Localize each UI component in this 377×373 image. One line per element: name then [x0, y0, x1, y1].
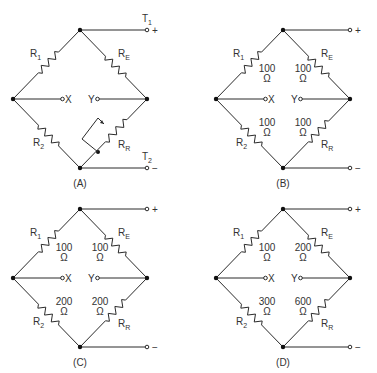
rr-unit: Ω — [299, 127, 307, 138]
terminal-negative — [348, 345, 352, 349]
re-unit: Ω — [299, 252, 307, 263]
label-x: X — [65, 273, 72, 284]
resistor-re — [283, 30, 350, 99]
node-bottom — [281, 166, 285, 170]
terminal-x — [61, 97, 65, 101]
node-top — [78, 207, 82, 211]
r1-unit: Ω — [263, 73, 271, 84]
caption-d: (D) — [276, 357, 290, 368]
r2-unit: Ω — [60, 306, 68, 317]
node-top — [281, 28, 285, 32]
resistor-r2 — [13, 278, 80, 347]
node-bottom — [281, 345, 285, 349]
re-unit: Ω — [96, 252, 104, 263]
caption-b: (B) — [276, 178, 289, 189]
terminal-y — [96, 97, 100, 101]
label-r2: R2 — [236, 316, 247, 329]
terminal-y — [299, 276, 303, 280]
rr-unit: Ω — [96, 306, 104, 317]
r1-unit: Ω — [60, 252, 68, 263]
bridge-diagram-b: XY+−R1RER2RR100Ω100Ω100Ω100Ω(B) — [214, 25, 361, 189]
resistor-r2 — [13, 99, 80, 168]
label-r2: R2 — [33, 137, 44, 150]
resistor-re — [283, 209, 350, 278]
node-left — [11, 276, 15, 280]
terminal-x — [61, 276, 65, 280]
resistor-rr — [283, 99, 350, 168]
label-r1: R1 — [233, 48, 244, 61]
terminal-x — [264, 97, 268, 101]
sign-negative: − — [355, 163, 361, 174]
label-re: RE — [321, 227, 333, 240]
sign-positive: + — [152, 204, 158, 215]
r2-unit: Ω — [263, 127, 271, 138]
label-r2: R2 — [236, 137, 247, 150]
node-right — [145, 97, 149, 101]
label-y: Y — [291, 94, 298, 105]
label-rr: RR — [118, 139, 130, 152]
re-unit: Ω — [299, 73, 307, 84]
node-right — [348, 276, 352, 280]
terminal-y — [299, 97, 303, 101]
node-top — [281, 207, 285, 211]
resistor-r2 — [216, 278, 283, 347]
rr-unit: Ω — [299, 306, 307, 317]
label-re: RE — [118, 227, 130, 240]
node-bottom — [78, 166, 82, 170]
sign-negative: − — [355, 342, 361, 353]
terminal-x — [264, 276, 268, 280]
sign-positive: + — [355, 204, 361, 215]
resistor-re — [80, 30, 147, 99]
sign-positive: + — [355, 25, 361, 36]
sign-negative: − — [152, 342, 158, 353]
resistor-rr — [283, 278, 350, 347]
bridge-diagram-c: XY+−R1RER2RR100Ω100Ω200Ω200Ω(C) — [11, 204, 158, 368]
resistor-rr — [80, 278, 147, 347]
terminal-positive — [145, 28, 149, 32]
node-left — [11, 97, 15, 101]
node-top — [78, 28, 82, 32]
label-t1: T1 — [142, 13, 152, 26]
label-x: X — [268, 94, 275, 105]
label-y: Y — [291, 273, 298, 284]
terminal-positive — [145, 207, 149, 211]
bridge-diagram-d: XY+−R1RER2RR100Ω200Ω300Ω600Ω(D) — [214, 204, 361, 368]
r1-unit: Ω — [263, 252, 271, 263]
label-rr: RR — [321, 318, 333, 331]
resistor-re — [80, 209, 147, 278]
label-rr: RR — [321, 139, 333, 152]
terminal-y — [96, 276, 100, 280]
label-r1: R1 — [30, 48, 41, 61]
label-x: X — [65, 94, 72, 105]
bridge-diagram-a: XY+−T1T2R1RER2RR(A) — [11, 13, 158, 189]
label-t2: T2 — [142, 151, 152, 164]
node-left — [214, 97, 218, 101]
label-y: Y — [88, 273, 95, 284]
node-left — [214, 276, 218, 280]
node-right — [145, 276, 149, 280]
label-r1: R1 — [30, 227, 41, 240]
sign-negative: − — [152, 163, 158, 174]
label-x: X — [268, 273, 275, 284]
caption-a: (A) — [73, 178, 86, 189]
caption-c: (C) — [73, 357, 87, 368]
node-right — [348, 97, 352, 101]
label-re: RE — [118, 48, 130, 61]
terminal-negative — [348, 166, 352, 170]
label-y: Y — [88, 94, 95, 105]
terminal-negative — [145, 345, 149, 349]
terminal-positive — [348, 28, 352, 32]
label-r1: R1 — [233, 227, 244, 240]
resistor-r1 — [13, 30, 80, 99]
terminal-positive — [348, 207, 352, 211]
label-re: RE — [321, 48, 333, 61]
wheatstone-bridge-figure: XY+−T1T2R1RER2RR(A)XY+−R1RER2RR100Ω100Ω1… — [0, 0, 377, 373]
resistor-rr — [80, 99, 147, 168]
terminal-negative — [145, 166, 149, 170]
label-r2: R2 — [33, 316, 44, 329]
r2-unit: Ω — [263, 306, 271, 317]
sign-positive: + — [152, 25, 158, 36]
label-rr: RR — [118, 318, 130, 331]
node-bottom — [78, 345, 82, 349]
resistor-r2 — [216, 99, 283, 168]
